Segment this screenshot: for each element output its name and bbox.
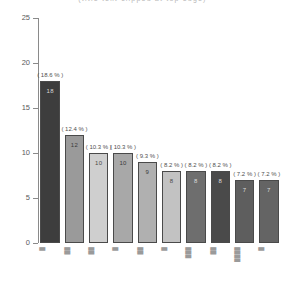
bar-value-label: 7: [236, 187, 253, 193]
y-axis-tick-label: 25: [0, 14, 30, 22]
x-axis-category-label: ████: [235, 247, 254, 262]
bar: 8: [186, 171, 205, 243]
x-axis-category-label: █: [162, 247, 181, 251]
bar-percent-label: ( 12.4 % ): [61, 126, 88, 132]
bar-value-label: 18: [41, 88, 58, 94]
y-axis-tick-label: 15: [0, 104, 30, 112]
y-axis-tick-label: 5: [0, 194, 30, 202]
y-axis-tick: [33, 243, 38, 244]
bar-percent-label: ( 18.6 % ): [36, 72, 63, 78]
bar-percent-label: ( 7.2 % ): [255, 171, 282, 177]
x-axis-category-label: █: [259, 247, 278, 251]
x-axis-category-label: ███: [186, 247, 205, 258]
bar: 8: [162, 171, 181, 243]
bar: 12: [65, 135, 84, 243]
bar: 7: [259, 180, 278, 243]
y-axis-tick-label: 10: [0, 149, 30, 157]
plot-area: 18( 18.6 % )12( 12.4 % )10( 10.3 % )10( …: [38, 18, 281, 243]
bar-value-label: 9: [139, 169, 156, 175]
bar: 9: [138, 162, 157, 243]
x-axis-category-label: █: [40, 247, 59, 251]
bar: 7: [235, 180, 254, 243]
bar: 18: [40, 81, 59, 243]
bar-chart: (title text clipped at top edge) 0510152…: [0, 0, 285, 285]
bar-percent-label: ( 10.3 % ): [109, 144, 136, 150]
bar-value-label: 7: [260, 187, 277, 193]
bar-percent-label: ( 8.2 % ): [207, 162, 234, 168]
bar-value-label: 12: [66, 142, 83, 148]
bar-percent-label: ( 10.3 % ): [85, 144, 112, 150]
bar-value-label: 8: [187, 178, 204, 184]
bar: 8: [211, 171, 230, 243]
x-axis-category-label: ██: [211, 247, 230, 255]
bar-value-label: 8: [212, 178, 229, 184]
y-axis-tick-label: 0: [0, 239, 30, 247]
x-axis-category-label: █: [113, 247, 132, 251]
bar: 10: [113, 153, 132, 243]
bar-value-label: 8: [163, 178, 180, 184]
bar-value-label: 10: [90, 160, 107, 166]
bar-percent-label: ( 9.3 % ): [134, 153, 161, 159]
x-axis-category-label: ██: [89, 247, 108, 255]
x-axis-category-label: ██: [65, 247, 84, 255]
bar-value-label: 10: [114, 160, 131, 166]
y-axis-tick-label: 20: [0, 59, 30, 67]
chart-title: (title text clipped at top edge): [0, 0, 285, 3]
bar: 10: [89, 153, 108, 243]
x-axis-category-label: ██: [138, 247, 157, 255]
